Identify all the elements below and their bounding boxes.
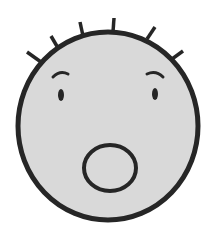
hair-strand	[172, 51, 183, 59]
hair-strand	[147, 27, 155, 39]
surprised-face-illustration: surprised face	[0, 0, 220, 227]
right-eye	[152, 88, 158, 100]
hair-strand	[27, 52, 41, 62]
left-eye	[58, 89, 64, 101]
face-drawing	[0, 0, 220, 227]
